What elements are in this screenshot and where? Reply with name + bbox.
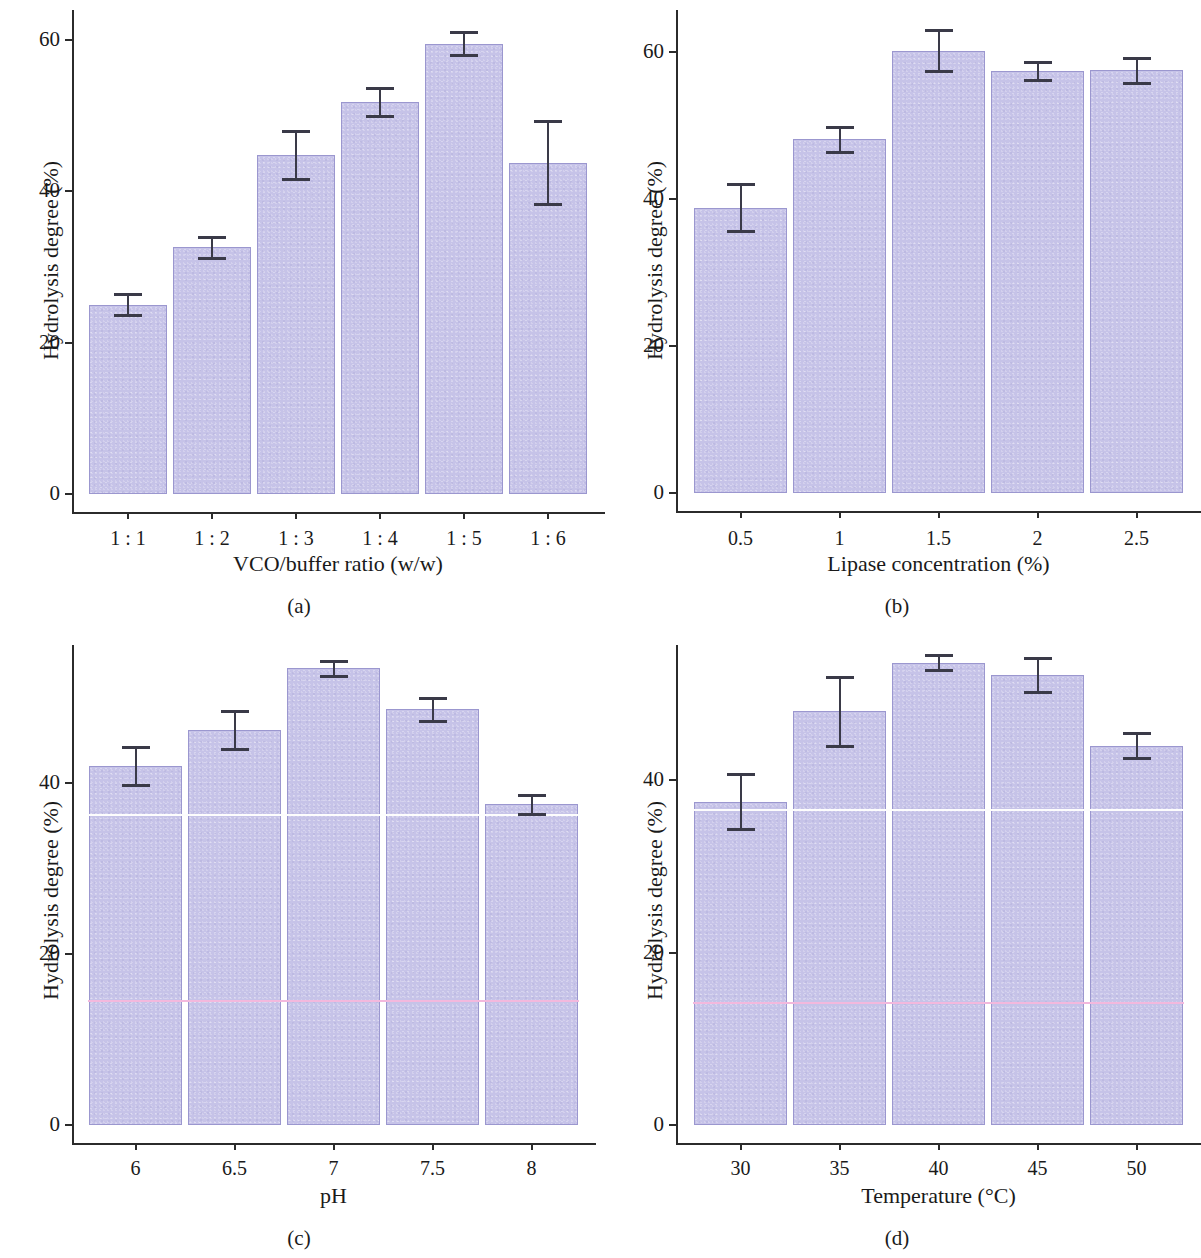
- x-axis-tick-mark: [938, 1143, 940, 1150]
- bar: [991, 675, 1084, 1125]
- error-bar-cap-upper: [419, 697, 447, 700]
- bar: [694, 208, 787, 493]
- y-axis-tick-mark: [669, 345, 676, 347]
- y-axis-line: [72, 645, 74, 1143]
- x-axis-title: Lipase concentration (%): [689, 553, 1189, 575]
- error-bar-stem: [211, 237, 213, 258]
- y-axis-tick-mark: [65, 342, 72, 344]
- bar: [991, 71, 1084, 493]
- error-bar-stem: [333, 661, 335, 676]
- error-bar-cap-lower: [450, 54, 478, 57]
- x-axis-tick-mark: [547, 512, 549, 519]
- error-bar-stem: [740, 774, 742, 829]
- error-bar-stem: [1037, 62, 1039, 80]
- error-bar-cap-upper: [534, 120, 562, 123]
- error-bar-cap-upper: [518, 794, 546, 797]
- error-bar-cap-lower: [320, 675, 348, 678]
- x-axis-tick-mark: [463, 512, 465, 519]
- x-axis-tick-mark: [839, 1143, 841, 1150]
- error-bar-cap-upper: [727, 183, 755, 186]
- y-axis-tick-label: 60: [0, 29, 60, 50]
- error-bar-stem: [531, 795, 533, 814]
- bar: [341, 102, 419, 494]
- y-axis-tick-mark: [669, 51, 676, 53]
- x-axis-tick-mark: [1037, 511, 1039, 518]
- panel-caption-d: (d): [598, 1228, 1196, 1249]
- x-axis-tick-mark: [740, 511, 742, 518]
- x-axis-tick-mark: [531, 1143, 533, 1150]
- x-axis-tick-mark: [135, 1143, 137, 1150]
- x-axis-tick-label: 50: [1077, 1158, 1197, 1178]
- y-axis-tick-mark: [65, 953, 72, 955]
- error-bar-cap-upper: [221, 710, 249, 713]
- error-bar-cap-lower: [925, 669, 953, 672]
- error-bar-cap-lower: [1123, 757, 1151, 760]
- error-bar-cap-upper: [450, 31, 478, 34]
- panel-c: 0204066.577.58pHHydrolysis degree (%) (c…: [0, 629, 598, 1258]
- bar: [694, 802, 787, 1125]
- error-bar-cap-upper: [826, 676, 854, 679]
- y-axis-tick-mark: [669, 779, 676, 781]
- y-axis-tick-mark: [65, 1124, 72, 1126]
- error-bar-stem: [1037, 658, 1039, 693]
- error-bar-cap-lower: [1024, 691, 1052, 694]
- y-axis-line: [676, 10, 678, 511]
- error-bar-stem: [938, 655, 940, 671]
- bar: [793, 711, 886, 1125]
- error-bar-stem: [135, 747, 137, 785]
- bar: [89, 766, 182, 1125]
- y-axis-tick-label: 0: [0, 483, 60, 504]
- error-bar-cap-upper: [320, 660, 348, 663]
- y-axis-tick-mark: [65, 39, 72, 41]
- error-bar-cap-lower: [282, 178, 310, 181]
- bar: [386, 709, 479, 1125]
- x-axis-title: Temperature (°C): [689, 1185, 1189, 1207]
- y-axis-tick-mark: [65, 190, 72, 192]
- error-bar-stem: [234, 711, 236, 749]
- x-axis-tick-mark: [938, 511, 940, 518]
- plot-area-a: 02040601 : 11 : 21 : 31 : 41 : 51 : 6VCO…: [0, 0, 598, 629]
- error-bar-cap-upper: [826, 126, 854, 129]
- error-bar-cap-lower: [419, 720, 447, 723]
- x-axis-tick-mark: [740, 1143, 742, 1150]
- error-bar-cap-upper: [1123, 732, 1151, 735]
- error-bar-cap-lower: [1024, 79, 1052, 82]
- x-axis-tick-mark: [211, 512, 213, 519]
- bar: [173, 247, 251, 494]
- bar: [485, 804, 578, 1125]
- x-axis-tick-mark: [127, 512, 129, 519]
- bar: [188, 730, 281, 1125]
- error-bar-cap-lower: [727, 828, 755, 831]
- x-axis-tick-mark: [432, 1143, 434, 1150]
- panel-a: 02040601 : 11 : 21 : 31 : 41 : 51 : 6VCO…: [0, 0, 598, 629]
- error-bar-cap-upper: [1024, 657, 1052, 660]
- x-axis-tick-mark: [234, 1143, 236, 1150]
- x-axis-title: VCO/buffer ratio (w/w): [88, 553, 588, 575]
- y-axis-title: Hydrolysis degree (%): [644, 161, 666, 360]
- y-axis-title: Hydrolysis degree (%): [644, 801, 666, 1000]
- scan-artifact-line: [693, 809, 1184, 811]
- panel-caption-b: (b): [598, 596, 1196, 617]
- error-bar-cap-lower: [1123, 82, 1151, 85]
- error-bar-cap-upper: [727, 773, 755, 776]
- error-bar-cap-upper: [1123, 57, 1151, 60]
- error-bar-cap-upper: [282, 130, 310, 133]
- panel-d: 020403035404550Temperature (°C)Hydrolysi…: [598, 629, 1196, 1258]
- error-bar-cap-lower: [518, 813, 546, 816]
- x-axis-tick-mark: [295, 512, 297, 519]
- error-bar-stem: [127, 294, 129, 315]
- scan-artifact-line: [88, 1000, 579, 1002]
- error-bar-stem: [740, 184, 742, 231]
- error-bar-cap-upper: [925, 654, 953, 657]
- x-axis-tick-mark: [1136, 1143, 1138, 1150]
- y-axis-tick-label: 0: [594, 1114, 664, 1135]
- y-axis-tick-mark: [669, 492, 676, 494]
- x-axis-title: pH: [84, 1185, 584, 1207]
- error-bar-cap-lower: [925, 70, 953, 73]
- y-axis-line: [72, 10, 74, 512]
- error-bar-cap-upper: [114, 293, 142, 296]
- x-axis-line: [72, 512, 605, 514]
- panel-caption-a: (a): [0, 596, 598, 617]
- x-axis-tick-label: 2.5: [1077, 528, 1197, 548]
